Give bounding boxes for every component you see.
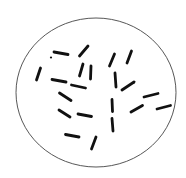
speck-dot <box>50 56 52 58</box>
microscope-field-figure <box>0 0 186 178</box>
bacterium-rod <box>112 119 113 132</box>
background <box>0 0 186 178</box>
bacterium-rod <box>91 66 92 79</box>
speck-group <box>50 56 52 58</box>
bacterium-rod <box>112 100 113 112</box>
bacterium-rod <box>115 73 116 87</box>
